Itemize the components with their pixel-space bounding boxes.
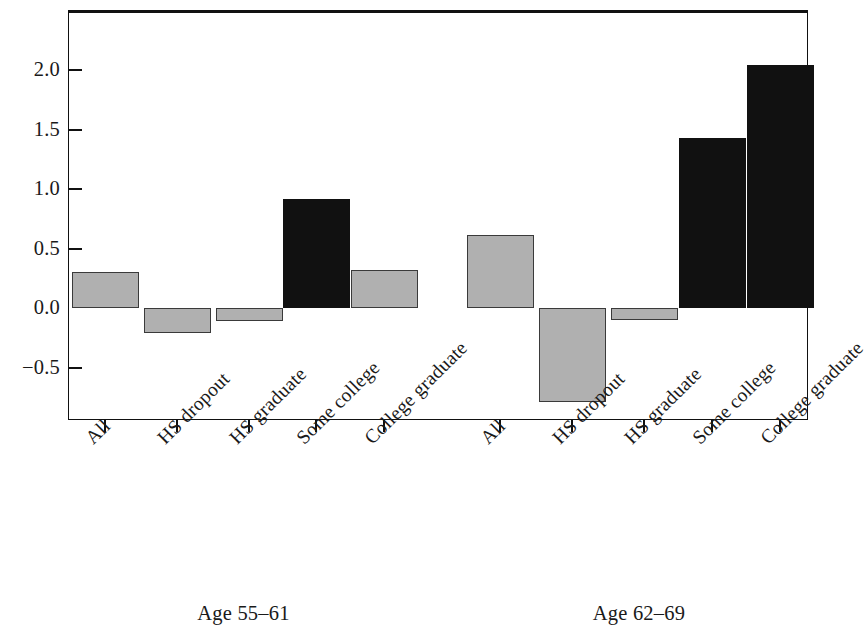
y-axis-tick-label: 0.0	[2, 297, 60, 318]
y-axis-tick-labels: 2.01.51.00.50.0−0.5	[0, 0, 60, 638]
bar	[216, 308, 283, 321]
y-axis-tick-label: 1.0	[2, 178, 60, 199]
plot-area	[68, 10, 808, 420]
bar	[539, 308, 606, 402]
x-axis-tick-mark	[643, 419, 645, 432]
x-axis-tick-mark	[104, 419, 106, 432]
group-label: Age 62–69	[593, 603, 685, 624]
y-axis-tick-mark	[69, 188, 82, 190]
bar	[467, 235, 534, 308]
x-axis-tick-mark	[711, 419, 713, 432]
bar	[351, 270, 418, 308]
bar	[72, 272, 139, 308]
x-axis-category-label: All	[477, 416, 509, 448]
x-axis-tick-mark	[248, 419, 250, 432]
y-axis-tick-label: −0.5	[2, 356, 60, 377]
x-axis-tick-mark	[315, 419, 317, 432]
y-axis-tick-label: 2.0	[2, 59, 60, 80]
y-axis-tick-mark	[69, 367, 82, 369]
bar	[611, 308, 678, 320]
x-axis-tick-mark	[176, 419, 178, 432]
y-axis-tick-label: 0.5	[2, 237, 60, 258]
group-label: Age 55–61	[197, 603, 289, 624]
zero-baseline	[69, 11, 807, 13]
x-axis-tick-mark	[571, 419, 573, 432]
x-axis-category-label: All	[82, 416, 114, 448]
y-axis-tick-label: 1.5	[2, 118, 60, 139]
y-axis-tick-mark	[69, 248, 82, 250]
bar	[747, 65, 814, 308]
bar	[144, 308, 211, 333]
x-axis-tick-mark	[499, 419, 501, 432]
x-axis-tick-mark	[779, 419, 781, 432]
bar	[679, 138, 746, 308]
bar	[283, 199, 350, 308]
x-axis-tick-mark	[383, 419, 385, 432]
y-axis-tick-mark	[69, 69, 82, 71]
y-axis-tick-mark	[69, 129, 82, 131]
